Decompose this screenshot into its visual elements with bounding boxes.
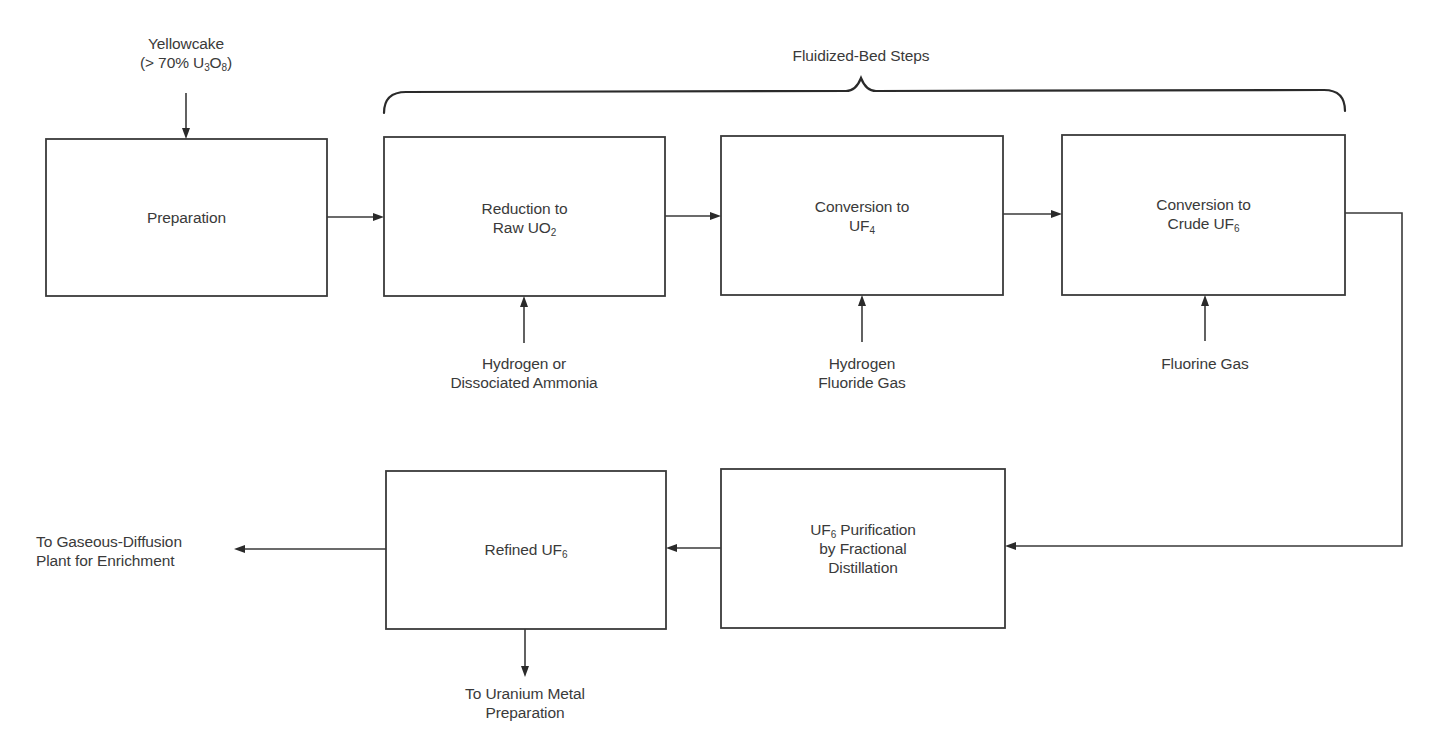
input-label-hydrogen-ammonia: Hydrogen or Dissociated Ammonia [424, 354, 624, 392]
box-label-preparation: Preparation [46, 208, 327, 227]
uf4-line2: UF4 [721, 216, 1003, 235]
arrowhead-icon [666, 544, 677, 552]
crude-uf6-line2: Crude UF6 [1062, 214, 1345, 233]
fluidized-bed-brace [384, 78, 1345, 113]
purification-line3: Distillation [721, 558, 1005, 577]
feed-label: Yellowcake (> 70% U3O8) [106, 34, 266, 72]
arrowhead-icon [1201, 295, 1209, 306]
reduction-line1: Reduction to [384, 199, 665, 218]
arrowhead-icon [1051, 210, 1062, 218]
box-label-conversion-uf4: Conversion to UF4 [721, 197, 1003, 235]
purification-line1: UF6 Purification [721, 520, 1005, 539]
feed-arrowhead-icon [182, 128, 190, 139]
input-label-fluorine: Fluorine Gas [1105, 354, 1305, 373]
feed-line1: Yellowcake [106, 34, 266, 53]
arrowhead-icon [234, 545, 245, 553]
uf4-line1: Conversion to [721, 197, 1003, 216]
output-label-uranium-metal: To Uranium Metal Preparation [425, 684, 625, 722]
box-label-refined-uf6: Refined UF6 [386, 540, 666, 559]
feed-line2: (> 70% U3O8) [106, 53, 266, 72]
box-label-reduction: Reduction to Raw UO2 [384, 199, 665, 237]
arrowhead-icon [1005, 542, 1016, 550]
arrowhead-icon [373, 213, 384, 221]
box-label-conversion-crude-uf6: Conversion to Crude UF6 [1062, 195, 1345, 233]
output-label-gaseous-diffusion: To Gaseous-Diffusion Plant for Enrichmen… [36, 532, 226, 570]
input-label-hydrogen-fluoride: Hydrogen Fluoride Gas [762, 354, 962, 392]
reduction-line2: Raw UO2 [384, 218, 665, 237]
box-label-purification: UF6 Purification by Fractional Distillat… [721, 520, 1005, 577]
arrowhead-icon [521, 666, 529, 677]
arrowhead-icon [520, 296, 528, 307]
purification-line2: by Fractional [721, 539, 1005, 558]
crude-uf6-line1: Conversion to [1062, 195, 1345, 214]
arrowhead-icon [710, 212, 721, 220]
arrowhead-icon [858, 295, 866, 306]
fluidized-bed-label: Fluidized-Bed Steps [761, 46, 961, 65]
